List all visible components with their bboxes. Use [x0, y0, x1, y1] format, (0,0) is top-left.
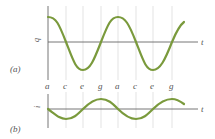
charge-curve: [48, 17, 184, 70]
tick-labels: a c e g a c e g: [45, 81, 174, 91]
panel-a-axes: [48, 6, 198, 80]
tick-label: a: [115, 81, 120, 91]
tick-label: c: [63, 81, 67, 91]
tick-label: g: [169, 81, 174, 91]
panel-b-xlabel: t: [201, 104, 204, 114]
panel-b-label: (b): [10, 124, 21, 134]
lc-oscillation-diagram: q t (a) a c e g a c e g i t (b): [0, 0, 215, 139]
panel-a-xlabel: t: [201, 37, 204, 47]
tick-label: c: [133, 81, 137, 91]
panel-a-label: (a): [10, 64, 21, 74]
panel-a-ylabel: q: [32, 38, 41, 42]
tick-label: e: [80, 81, 84, 91]
panel-b-ylabel: i: [33, 106, 42, 108]
tick-label: g: [98, 81, 103, 91]
tick-label: e: [150, 81, 154, 91]
tick-label: a: [45, 81, 50, 91]
